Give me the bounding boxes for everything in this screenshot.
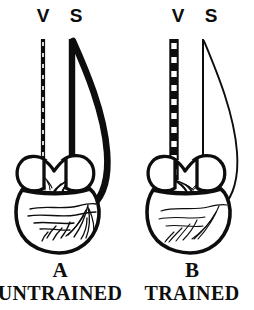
panel-caption-b: TRAINED: [144, 282, 239, 304]
sympathetic-label-a: S: [70, 5, 83, 26]
vagus-label-b: V: [172, 5, 185, 26]
ventricle-b: [147, 189, 230, 253]
autonomic-innervation-diagram: V S: [0, 0, 254, 310]
sympathetic-label-b: S: [205, 5, 218, 26]
background: [0, 0, 254, 310]
left-atrium-a: [17, 156, 45, 190]
left-atrium-b: [148, 156, 176, 190]
panel-letter-a: A: [52, 258, 68, 282]
panel-caption-a: UNTRAINED: [0, 282, 122, 304]
panel-letter-b: B: [185, 258, 199, 282]
vagus-label-a: V: [37, 5, 50, 26]
figure-canvas: V S: [0, 0, 254, 310]
right-atrium-a: [63, 156, 94, 191]
right-atrium-b: [194, 156, 225, 191]
